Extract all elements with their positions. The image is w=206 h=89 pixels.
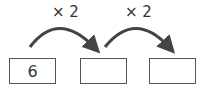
box-1: 6: [9, 58, 56, 84]
arrow-2-icon: [105, 29, 169, 48]
box-2[interactable]: [80, 58, 127, 84]
operation-label-1: × 2: [52, 3, 79, 21]
operation-label-2: × 2: [125, 3, 152, 21]
arrow-1-icon: [30, 29, 94, 48]
box-3[interactable]: [149, 58, 196, 84]
